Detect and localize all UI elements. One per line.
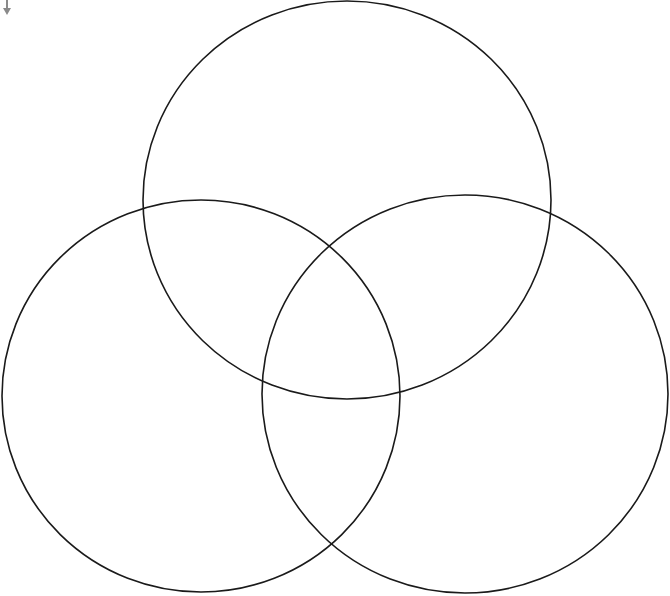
venn-circle-left xyxy=(2,200,400,592)
caret-shape xyxy=(3,0,11,15)
venn-circle-right xyxy=(262,195,668,593)
venn-diagram xyxy=(0,0,670,596)
caret-down-icon xyxy=(0,0,14,16)
